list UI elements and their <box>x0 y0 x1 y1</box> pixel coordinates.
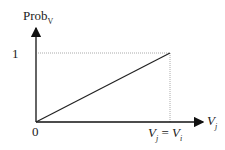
y-axis-label: ProbV <box>23 9 53 26</box>
x-axis-label-sub: j <box>215 122 217 131</box>
x-axis-label-main: V <box>207 113 215 128</box>
x-tick-vi: V <box>172 125 180 140</box>
y-axis-label-sub: V <box>48 17 54 26</box>
x-axis-label: Vj <box>207 114 217 131</box>
prob-line <box>36 53 170 122</box>
x-tick-vj: V <box>148 125 156 140</box>
origin-label: 0 <box>32 125 39 138</box>
x-tick-vj-equals-vi: Vj = Vi <box>148 126 182 143</box>
x-tick-equals: = <box>158 125 172 140</box>
x-tick-vi-sub: i <box>180 134 182 143</box>
y-tick-one: 1 <box>12 47 19 60</box>
y-axis-label-main: Prob <box>23 8 48 23</box>
